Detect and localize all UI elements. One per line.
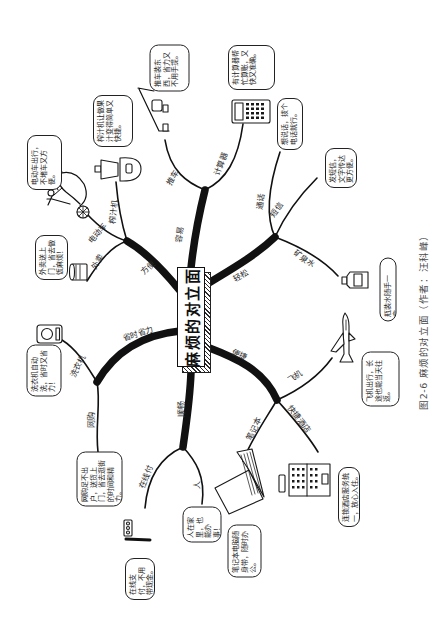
- note-bubble-online-shopping: 网购足不出户，送货上门，省去逛街的时间和精力。: [77, 452, 123, 507]
- branch-label-smooth: 顺畅: [177, 401, 186, 417]
- note-bubble-washer: 洗衣机自动洗，省时又省力！: [27, 345, 62, 397]
- note-bubble-juicer: 榨汁机让做果汁变得简单又快捷。: [93, 95, 133, 147]
- pos-terminal-icon: [124, 520, 150, 540]
- airplane-icon: [331, 313, 355, 362]
- washing-machine-icon: [37, 325, 62, 343]
- note-bubble-sms: 发短信，文字传达更方便。: [325, 148, 357, 188]
- takeaway-cup-icon: [70, 264, 88, 280]
- note-bubble-water: 瓶装水随手一拿。: [380, 258, 397, 322]
- sub-label-online-shopping: 网购: [87, 412, 96, 428]
- branch-line-easy: [191, 190, 205, 268]
- note-bubble-cart: 推车装东西，省力又不用手提。: [150, 45, 190, 92]
- note-bubble-scooter: 电动车出行，不堵车又方便。: [27, 135, 62, 190]
- note-bubble-calculator: 有计算器帮忙算账，又快又准确。: [228, 45, 275, 90]
- bottle-icon: [342, 272, 368, 288]
- sub-label-person: 人: [193, 481, 202, 489]
- branch-line-save-time: [97, 331, 180, 382]
- note-bubble-airplane: 飞机出行，长途也能当天往返。: [362, 352, 400, 407]
- note-bubble-hotel: 连锁酒店服务统一，放心入住。: [338, 467, 360, 527]
- note-bubble-takeaway: 外卖送上门，省去做饭麻烦！: [35, 235, 68, 280]
- center-node: 麻烦的对立面: [177, 267, 205, 367]
- center-node-label: 麻烦的对立面: [181, 268, 202, 367]
- note-bubble-person: 人在家里，也能办事！: [183, 507, 222, 543]
- note-bubble-laptop: 笔记本电脑随身带，随时办公。: [228, 525, 262, 578]
- note-bubble-call: 想说话，拨个电话就行。: [277, 98, 303, 150]
- laptop-icon: [215, 449, 264, 514]
- shopping-cart-icon: [138, 88, 169, 131]
- calculator-icon: [232, 100, 270, 123]
- juicer-icon: [95, 158, 141, 181]
- figure-caption: 图2-6 麻烦的对立面（作者：汪科峰）: [416, 230, 430, 410]
- note-bubble-online-pay: 在线支付，不用带现金。: [125, 558, 155, 600]
- hotel-building-icon: [279, 464, 330, 496]
